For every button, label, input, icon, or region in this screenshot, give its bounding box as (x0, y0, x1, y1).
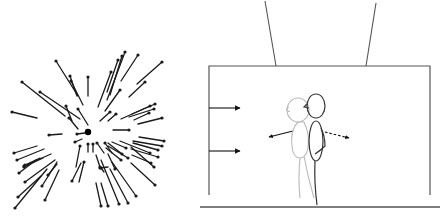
wind-arrows (209, 108, 240, 151)
faded-figure-head (287, 98, 309, 122)
flow-vector (110, 169, 130, 205)
flow-vector (95, 141, 104, 153)
dark-figure-body (309, 121, 323, 161)
flow-vector (86, 142, 89, 152)
flow-vector (101, 183, 110, 208)
dashed-motion-arrow (325, 132, 349, 138)
room-scene-panel (200, 0, 446, 217)
flow-vector (76, 107, 88, 125)
cable-line (366, 3, 376, 66)
optic-flow-panel (0, 0, 180, 217)
flow-vector (108, 154, 117, 171)
radial-vector-field (0, 0, 180, 217)
cable-line (265, 1, 276, 66)
flow-vector (43, 170, 59, 202)
faded-figure-legs (299, 156, 314, 198)
flow-vector (17, 160, 36, 175)
room-box-outline (209, 66, 430, 195)
flow-vector (113, 128, 131, 131)
flow-vector (138, 116, 164, 124)
faded-figure-nose (287, 107, 290, 111)
flow-vector (98, 70, 113, 107)
flow-vector (86, 75, 89, 96)
dark-figure-head (307, 94, 325, 118)
flow-vector (38, 90, 80, 119)
flow-vector (73, 139, 82, 144)
room-scene (200, 0, 446, 217)
flow-vector (108, 112, 118, 121)
dark-figure-legs (315, 161, 317, 205)
flow-vector (121, 53, 140, 81)
flow-vector (23, 158, 40, 167)
flow-vector (75, 132, 85, 135)
flow-vector (137, 60, 164, 84)
flow-vector (107, 58, 120, 92)
focus-of-expansion-dot (85, 129, 91, 135)
flow-vector (67, 116, 78, 129)
flow-vector (47, 133, 62, 136)
suspension-cables (265, 1, 376, 66)
flow-vector (68, 74, 77, 96)
flow-vector (20, 80, 65, 116)
flow-vector (10, 110, 37, 118)
flow-vector (139, 137, 166, 143)
flow-vector (91, 142, 94, 152)
faded-figure-body (292, 122, 309, 158)
solid-motion-arrow (269, 131, 293, 137)
flow-vector (13, 169, 47, 210)
